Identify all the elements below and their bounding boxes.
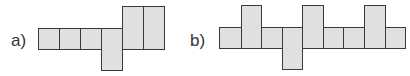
figure-b-label: b) (190, 32, 205, 49)
net-square (343, 27, 365, 49)
net-square (302, 5, 324, 49)
net-square (323, 27, 344, 49)
net-square (241, 5, 262, 49)
net-square (282, 27, 303, 70)
net-square (261, 27, 283, 49)
net-square (219, 27, 242, 49)
net-square (385, 27, 406, 49)
net-square (364, 5, 386, 49)
figure-b: b) (0, 0, 410, 76)
